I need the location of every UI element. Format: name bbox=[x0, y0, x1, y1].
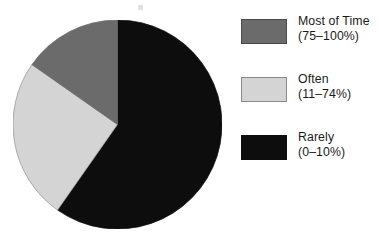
legend-item-rarely[interactable]: Rarely (0–10%) bbox=[241, 130, 378, 188]
legend-range-most-of-time: (75–100%) bbox=[298, 29, 370, 44]
legend-range-rarely: (0–10%) bbox=[298, 145, 345, 160]
legend-swatch-rarely bbox=[241, 135, 287, 160]
pie-chart-plot-area bbox=[13, 20, 222, 229]
pie-chart-figure: Most of Time (75–100%) Often (11–74%) Ra… bbox=[0, 0, 378, 236]
legend-swatch-most-of-time bbox=[241, 19, 287, 44]
legend-text-most-of-time: Most of Time (75–100%) bbox=[298, 14, 370, 43]
pie-chart-svg bbox=[13, 20, 222, 229]
legend-swatch-often bbox=[241, 77, 287, 102]
legend-text-often: Often (11–74%) bbox=[298, 72, 351, 101]
legend-text-rarely: Rarely (0–10%) bbox=[298, 130, 345, 159]
legend-label-rarely: Rarely bbox=[298, 130, 345, 145]
chart-legend: Most of Time (75–100%) Often (11–74%) Ra… bbox=[241, 14, 378, 188]
legend-item-most-of-time[interactable]: Most of Time (75–100%) bbox=[241, 14, 378, 72]
legend-range-often: (11–74%) bbox=[298, 87, 351, 102]
legend-item-often[interactable]: Often (11–74%) bbox=[241, 72, 378, 130]
legend-label-often: Often bbox=[298, 72, 351, 87]
pie-slice-group bbox=[13, 20, 222, 229]
legend-label-most-of-time: Most of Time bbox=[298, 14, 370, 29]
scan-speck-artifact bbox=[138, 5, 143, 10]
